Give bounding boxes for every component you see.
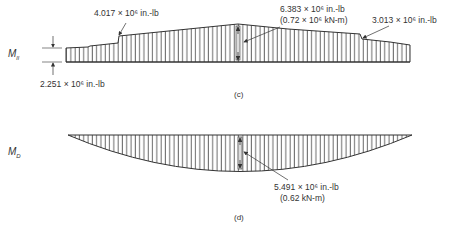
step-right-label: 3.013 × 10⁶ in.-lb	[372, 15, 437, 25]
peak-label-line2: (0.72 × 10⁶ kN-m)	[280, 15, 348, 25]
dead-load-moment-diagram	[68, 135, 412, 180]
end-left-label: 2.251 × 10⁶ in.-lb	[40, 79, 105, 89]
moment-diagrams-svg	[0, 0, 452, 225]
caption-c: (c)	[234, 90, 243, 99]
dead-moment-symbol: MD	[8, 146, 21, 159]
dead-peak-label-line2: (0.62 kN-m)	[280, 193, 325, 203]
peak-label-line1: 6.383 × 10⁶ in.-lb	[280, 4, 345, 14]
live-moment-symbol: Mll	[8, 48, 19, 61]
dead-peak-label-line1: 5.491 × 10⁶ in.-lb	[274, 182, 339, 192]
live-load-moment-diagram	[42, 23, 410, 75]
caption-d: (d)	[234, 213, 244, 222]
step-left-label: 4.017 × 10⁶ in.-lb	[94, 8, 159, 18]
